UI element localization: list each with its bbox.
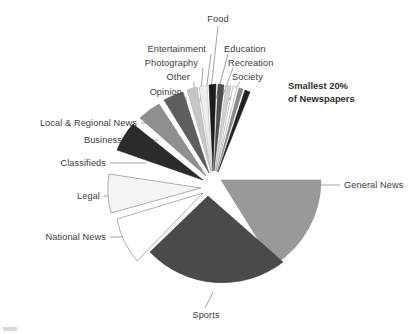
corner-artifact (3, 327, 17, 331)
pie-label-legal: Legal (20, 191, 100, 202)
pie-label-opinion: Opinion (88, 87, 182, 98)
pie-label-classifieds: Classifieds (20, 158, 106, 169)
pie-label-general-news: General News (344, 180, 403, 191)
pie-label-education: Education (224, 44, 266, 55)
leader-sports (205, 292, 213, 308)
chart-title: Smallest 20% of Newspapers (288, 79, 398, 105)
pie-chart: General News Sports National News Legal … (0, 0, 413, 334)
pie-slice-society[interactable] (218, 90, 250, 172)
pie-label-business: Business (36, 135, 122, 146)
pie-label-national-news: National News (2, 232, 106, 243)
pie-label-other: Other (100, 72, 190, 83)
pie-label-recreation: Recreation (228, 58, 273, 69)
pie-label-sports: Sports (176, 310, 236, 321)
pie-label-food: Food (188, 14, 248, 25)
pie-label-photography: Photography (92, 58, 198, 69)
pie-label-entertainment: Entertainment (88, 44, 206, 55)
pie-label-society: Society (232, 72, 263, 83)
pie-label-local-regional-news: Local & Regional News (4, 118, 137, 129)
